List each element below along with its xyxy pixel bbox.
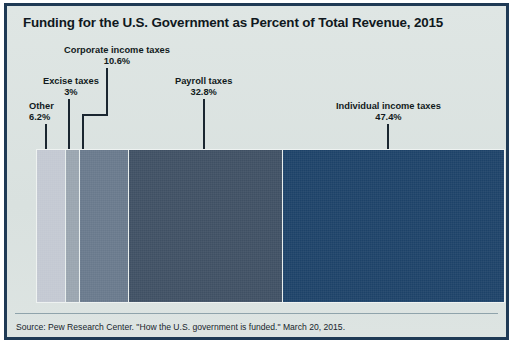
- callout-name-other: Other: [29, 101, 54, 111]
- footer-divider: [15, 313, 498, 314]
- stacked-bar-chart: [36, 149, 505, 303]
- callout-name-excise-taxes: Excise taxes: [43, 76, 99, 86]
- callout-label-payroll-taxes: Payroll taxes 32.8%: [175, 76, 232, 98]
- callout-pct-payroll-taxes: 32.8%: [175, 87, 232, 98]
- leader-line-corporate-lower: [82, 114, 84, 150]
- source-citation: Source: Pew Research Center. "How the U.…: [16, 322, 345, 332]
- leader-line-other: [45, 124, 47, 150]
- bar-segment-individual-income-taxes[interactable]: [283, 150, 504, 302]
- callout-pct-excise-taxes: 3%: [43, 87, 99, 98]
- chart-frame: Funding for the U.S. Government as Perce…: [4, 3, 509, 340]
- bar-segment-payroll-taxes[interactable]: [129, 150, 282, 302]
- callout-label-other: Other 6.2%: [29, 101, 54, 123]
- bar-segment-excise-taxes[interactable]: [66, 150, 80, 302]
- callout-label-excise-taxes: Excise taxes 3%: [43, 76, 99, 98]
- callout-name-corporate-income-taxes: Corporate income taxes: [64, 45, 170, 55]
- callout-pct-other: 6.2%: [29, 112, 54, 123]
- callout-label-individual-income-taxes: Individual income taxes 47.4%: [336, 101, 441, 123]
- leader-line-corporate-upper: [106, 68, 108, 115]
- callout-label-corporate-income-taxes: Corporate income taxes 10.6%: [64, 45, 170, 67]
- bar-segment-corporate-income-taxes[interactable]: [80, 150, 130, 302]
- callout-name-individual-income-taxes: Individual income taxes: [336, 101, 441, 111]
- leader-line-excise: [68, 99, 70, 150]
- callout-pct-individual-income-taxes: 47.4%: [336, 112, 441, 123]
- leader-line-individual: [387, 124, 389, 150]
- callout-name-payroll-taxes: Payroll taxes: [175, 76, 232, 86]
- bar-segment-other[interactable]: [37, 150, 66, 302]
- callout-pct-corporate-income-taxes: 10.6%: [64, 56, 170, 67]
- leader-line-corporate-elbow: [82, 114, 108, 116]
- leader-line-payroll: [203, 99, 205, 150]
- chart-title: Funding for the U.S. Government as Perce…: [23, 15, 443, 30]
- chart-canvas: Funding for the U.S. Government as Perce…: [7, 6, 506, 337]
